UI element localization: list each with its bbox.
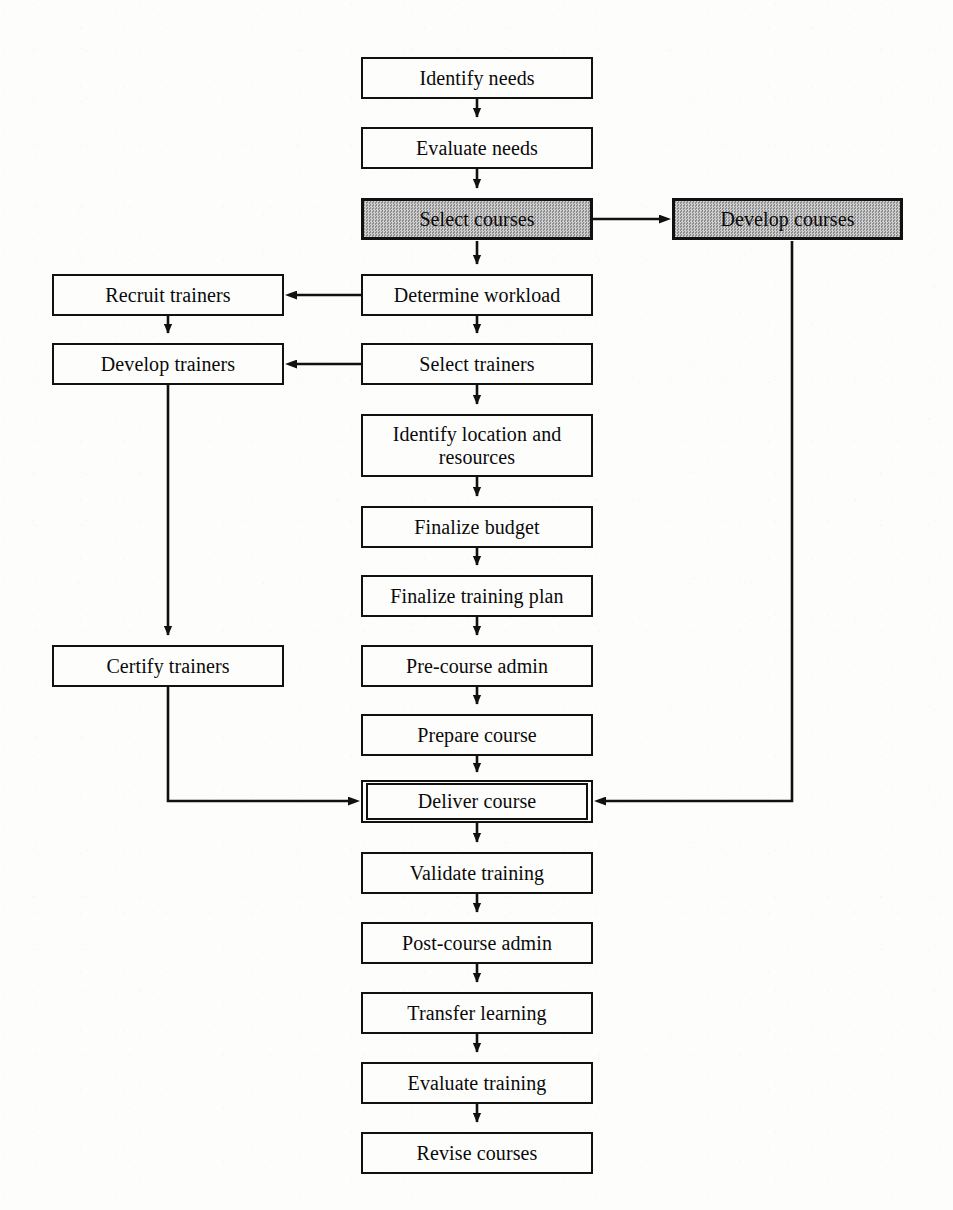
node-pre-course-admin[interactable]: Pre-course admin bbox=[361, 645, 593, 687]
node-label: Select courses bbox=[413, 208, 540, 230]
deliver-course-inner-frame: Deliver course bbox=[366, 783, 588, 820]
node-identify-needs[interactable]: Identify needs bbox=[361, 57, 593, 99]
node-finalize-budget[interactable]: Finalize budget bbox=[361, 506, 593, 548]
node-label: Validate training bbox=[404, 862, 550, 884]
node-label: Recruit trainers bbox=[99, 284, 236, 306]
node-label: Finalize training plan bbox=[384, 585, 569, 607]
node-label: Develop courses bbox=[714, 208, 860, 230]
node-select-courses[interactable]: Select courses bbox=[361, 198, 593, 240]
node-label: Certify trainers bbox=[100, 655, 235, 677]
node-label: Transfer learning bbox=[401, 1002, 552, 1024]
node-determine-workload[interactable]: Determine workload bbox=[361, 274, 593, 316]
node-deliver-course[interactable]: Deliver course bbox=[361, 780, 593, 823]
node-validate-training[interactable]: Validate training bbox=[361, 852, 593, 894]
node-label: Evaluate training bbox=[402, 1072, 553, 1094]
node-revise-courses[interactable]: Revise courses bbox=[361, 1132, 593, 1174]
node-label: Evaluate needs bbox=[410, 137, 544, 159]
node-label: Deliver course bbox=[412, 790, 543, 812]
node-select-trainers[interactable]: Select trainers bbox=[361, 343, 593, 385]
node-label: Revise courses bbox=[411, 1142, 544, 1164]
node-label: Select trainers bbox=[413, 353, 540, 375]
node-evaluate-needs[interactable]: Evaluate needs bbox=[361, 127, 593, 169]
edge-certify-trainers-to-deliver-course bbox=[168, 687, 349, 801]
node-prepare-course[interactable]: Prepare course bbox=[361, 714, 593, 756]
node-identify-location-and-resources[interactable]: Identify location and resources bbox=[361, 414, 593, 477]
node-label: Finalize budget bbox=[408, 516, 545, 538]
node-label: Pre-course admin bbox=[400, 655, 554, 677]
node-finalize-training-plan[interactable]: Finalize training plan bbox=[361, 575, 593, 617]
node-evaluate-training[interactable]: Evaluate training bbox=[361, 1062, 593, 1104]
node-label: Post-course admin bbox=[396, 932, 558, 954]
node-label: Identify needs bbox=[413, 67, 540, 89]
node-label: Identify location and resources bbox=[387, 423, 568, 468]
node-certify-trainers[interactable]: Certify trainers bbox=[52, 645, 284, 687]
flowchart-page: Identify needs Evaluate needs Select cou… bbox=[0, 0, 953, 1210]
edge-develop-courses-to-deliver-course bbox=[605, 241, 792, 801]
node-label: Determine workload bbox=[388, 284, 567, 306]
node-develop-courses[interactable]: Develop courses bbox=[672, 198, 903, 240]
node-recruit-trainers[interactable]: Recruit trainers bbox=[52, 274, 284, 316]
node-post-course-admin[interactable]: Post-course admin bbox=[361, 922, 593, 964]
node-transfer-learning[interactable]: Transfer learning bbox=[361, 992, 593, 1034]
node-label: Develop trainers bbox=[95, 353, 241, 375]
node-develop-trainers[interactable]: Develop trainers bbox=[52, 343, 284, 385]
node-label: Prepare course bbox=[411, 724, 543, 746]
